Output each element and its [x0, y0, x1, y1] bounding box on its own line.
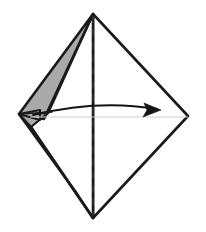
figure-canvas — [0, 0, 206, 232]
origami-figure: Origami fold step diagram — [0, 0, 206, 232]
